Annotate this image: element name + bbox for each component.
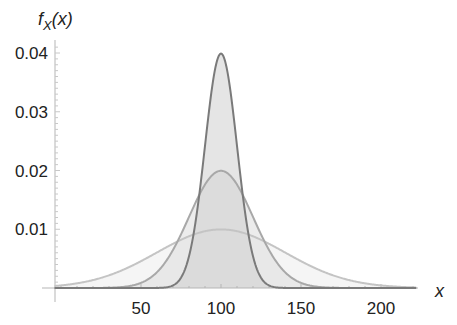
y-tick-label: 0.01: [15, 220, 48, 239]
normal-density-chart: 50100150200 0.010.020.030.04 fX(x) x: [0, 0, 457, 325]
x-tick-label: 200: [367, 299, 395, 318]
y-tick-label: 0.04: [15, 44, 48, 63]
y-axis-title-rest: (x): [52, 9, 73, 29]
x-tick-label: 100: [207, 299, 235, 318]
y-ticks: 0.010.020.030.04: [15, 44, 60, 282]
x-axis-title: x: [434, 281, 445, 301]
y-tick-label: 0.03: [15, 103, 48, 122]
density-areas: [55, 54, 417, 288]
y-tick-label: 0.02: [15, 162, 48, 181]
density-area: [55, 54, 417, 288]
x-tick-label: 50: [132, 299, 151, 318]
y-axis-title: fX(x): [38, 9, 73, 33]
x-ticks: 50100150200: [61, 284, 413, 318]
x-tick-label: 150: [287, 299, 315, 318]
